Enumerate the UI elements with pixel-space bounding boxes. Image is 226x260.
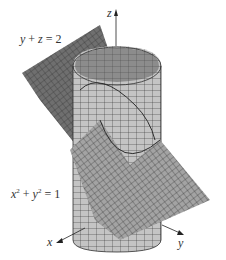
- z-axis-label: z: [107, 7, 112, 19]
- plane-equation-label: y + z = 2: [20, 33, 62, 45]
- cylinder-equation-label: x2 + y2 = 1: [11, 188, 60, 200]
- rhs-value: 2: [56, 32, 62, 46]
- cylinder-plane-intersection-figure: y + z = 2 x2 + y2 = 1 z x y: [0, 0, 226, 260]
- equals-sign: =: [41, 187, 54, 201]
- z-axis: [114, 9, 118, 48]
- y-axis: [162, 225, 184, 235]
- equals-sign: =: [43, 32, 56, 46]
- x-axis-label: x: [47, 236, 52, 248]
- rhs-value: 1: [54, 187, 60, 201]
- y-axis-label: y: [178, 237, 183, 249]
- plus-sign: +: [25, 32, 38, 46]
- plus-sign: +: [20, 187, 33, 201]
